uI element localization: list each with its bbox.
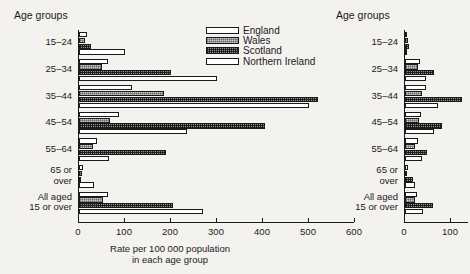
left-bar-england-5	[79, 165, 83, 170]
left-bar-england-1	[79, 59, 108, 64]
right-bar-wales-5	[405, 171, 407, 176]
left-bar-england-3	[79, 112, 119, 117]
right-bar-england-3	[405, 112, 421, 117]
right-category-label-line: 15 or over	[330, 202, 398, 213]
right-bar-northern-ireland-6	[405, 209, 423, 214]
left-bar-wales-5	[79, 171, 82, 176]
right-bar-england-0	[405, 32, 407, 37]
legend-swatch-scotland	[206, 47, 239, 54]
right-bar-scotland-4	[405, 150, 427, 155]
right-bar-wales-0	[405, 38, 408, 43]
left-category-label-line: over	[4, 176, 72, 187]
left-bar-northern-ireland-0	[79, 49, 125, 54]
left-category-label-0: 15–24	[4, 37, 72, 48]
left-bar-scotland-0	[79, 44, 91, 49]
right-bar-scotland-5	[405, 177, 413, 182]
left-category-label-line: 15–24	[4, 37, 72, 48]
left-xtick-600	[354, 218, 355, 222]
legend-row-2: Scotland	[206, 47, 366, 55]
left-xticklabel-400: 400	[242, 227, 282, 237]
right-bar-northern-ireland-2	[405, 103, 438, 108]
right-bar-northern-ireland-4	[405, 156, 422, 161]
left-xtick-100	[124, 218, 125, 222]
right-category-label-2: 35–44	[330, 91, 398, 102]
right-bar-wales-1	[405, 64, 418, 69]
left-bar-wales-1	[79, 64, 102, 69]
legend-row-0: England	[206, 27, 366, 35]
right-bar-england-4	[405, 138, 418, 143]
right-category-label-5: 65 orover	[330, 165, 398, 186]
x-axis-title-line2: in each age group	[0, 254, 340, 265]
right-category-label-4: 55–64	[330, 144, 398, 155]
right-xtick-100	[450, 218, 451, 222]
left-bar-england-0	[79, 32, 87, 37]
right-bar-northern-ireland-5	[405, 182, 415, 187]
right-bar-northern-ireland-3	[405, 129, 434, 134]
right-bar-scotland-1	[405, 70, 434, 75]
right-category-label-3: 45–54	[330, 117, 398, 128]
left-bar-northern-ireland-6	[79, 209, 203, 214]
left-xticklabel-600: 600	[334, 227, 374, 237]
right-bar-england-2	[405, 85, 426, 90]
left-xticklabel-300: 300	[196, 227, 236, 237]
left-bar-england-6	[79, 192, 108, 197]
right-bar-england-1	[405, 59, 420, 64]
left-category-label-4: 55–64	[4, 144, 72, 155]
right-category-label-line: 35–44	[330, 91, 398, 102]
right-category-label-line: 55–64	[330, 144, 398, 155]
left-bar-scotland-1	[79, 70, 171, 75]
right-bar-northern-ireland-1	[405, 76, 426, 81]
left-bar-northern-ireland-4	[79, 156, 109, 161]
left-category-label-line: 15 or over	[4, 202, 72, 213]
right-xticklabel-0: 0	[384, 227, 424, 237]
right-bar-scotland-3	[405, 123, 442, 128]
right-category-label-line: over	[330, 176, 398, 187]
left-bar-northern-ireland-3	[79, 129, 187, 134]
legend-swatch-northern-ireland	[206, 58, 239, 65]
right-bar-wales-4	[405, 144, 415, 149]
right-bar-wales-3	[405, 118, 419, 123]
left-xtick-300	[216, 218, 217, 222]
left-bar-northern-ireland-5	[79, 182, 94, 187]
left-xtick-500	[308, 218, 309, 222]
legend-row-1: Wales	[206, 37, 366, 45]
left-category-label-3: 45–54	[4, 117, 72, 128]
left-bar-northern-ireland-2	[79, 103, 309, 108]
right-xticklabel-100: 100	[430, 227, 470, 237]
left-xticklabel-100: 100	[104, 227, 144, 237]
left-xtick-200	[170, 218, 171, 222]
left-bar-scotland-6	[79, 203, 173, 208]
left-category-label-2: 35–44	[4, 91, 72, 102]
left-bar-england-2	[79, 85, 132, 90]
right-bar-scotland-0	[405, 44, 409, 49]
right-category-label-line: 45–54	[330, 117, 398, 128]
left-category-label-line: 45–54	[4, 117, 72, 128]
left-category-label-6: All aged15 or over	[4, 192, 72, 213]
left-age-groups-title: Age groups	[14, 10, 68, 21]
left-xticklabel-0: 0	[58, 227, 98, 237]
left-category-label-line: 55–64	[4, 144, 72, 155]
legend-label-northern-ireland: Northern Ireland	[243, 56, 315, 67]
left-bar-wales-2	[79, 91, 164, 96]
right-bar-wales-6	[405, 197, 415, 202]
left-xtick-400	[262, 218, 263, 222]
left-category-label-5: 65 orover	[4, 165, 72, 186]
right-bar-england-6	[405, 192, 417, 197]
legend-swatch-wales	[206, 37, 239, 44]
right-xtick-0	[404, 218, 405, 222]
right-age-groups-title: Age groups	[336, 10, 390, 21]
legend-row-3: Northern Ireland	[206, 58, 366, 66]
left-bar-northern-ireland-1	[79, 76, 217, 81]
left-category-label-line: 35–44	[4, 91, 72, 102]
left-bar-scotland-3	[79, 123, 265, 128]
right-bar-scotland-2	[405, 97, 462, 102]
left-bar-wales-3	[79, 118, 110, 123]
left-xtick-0	[78, 218, 79, 222]
left-bar-england-4	[79, 138, 97, 143]
left-bar-scotland-4	[79, 150, 166, 155]
left-bar-wales-4	[79, 144, 93, 149]
right-category-label-6: All aged15 or over	[330, 192, 398, 213]
right-bar-scotland-6	[405, 203, 433, 208]
legend-swatch-england	[206, 27, 239, 34]
